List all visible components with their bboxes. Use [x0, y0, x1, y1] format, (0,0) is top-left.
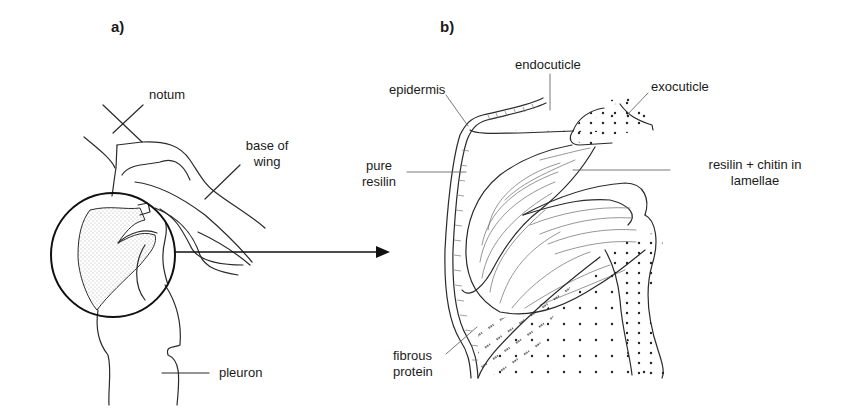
label-notum: notum	[149, 87, 185, 103]
label-epidermis: epidermis	[389, 82, 445, 98]
label-pure-resilin: pure resilin	[354, 158, 404, 190]
label-resilin-chitin-line2: lamellae	[690, 173, 820, 189]
label-resilin-chitin-line1: resilin + chitin in	[690, 157, 820, 173]
label-pure-resilin-line2: resilin	[354, 174, 404, 190]
label-fibrous-protein-line2: protein	[393, 364, 433, 380]
label-pure-resilin-line1: pure	[354, 158, 404, 174]
label-fibrous-protein: fibrous protein	[393, 348, 433, 380]
label-base-of-wing-line2: wing	[236, 154, 298, 170]
panel-b-label: b)	[440, 18, 454, 35]
label-endocuticle: endocuticle	[515, 57, 581, 73]
label-base-of-wing: base of wing	[236, 138, 298, 170]
label-pleuron: pleuron	[219, 365, 262, 381]
label-exocuticle: exocuticle	[651, 79, 709, 95]
label-fibrous-protein-line1: fibrous	[393, 348, 433, 364]
panel-a-drawing	[51, 105, 390, 405]
figure: a) b) notum base of wing pleuron epiderm…	[0, 0, 850, 409]
panel-a-label: a)	[111, 18, 124, 35]
panel-b-drawing	[445, 98, 665, 380]
label-base-of-wing-line1: base of	[236, 138, 298, 154]
label-resilin-chitin-lamellae: resilin + chitin in lamellae	[690, 157, 820, 189]
